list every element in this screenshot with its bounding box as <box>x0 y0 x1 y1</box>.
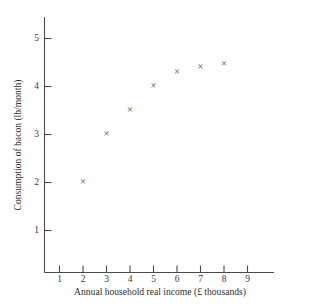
y-axis-title: Consumption of bacon (lb/month) <box>12 80 24 211</box>
x-tick-label-1: 1 <box>57 274 62 284</box>
y-tick-label-4: 4 <box>34 81 39 91</box>
x-tick-label-7: 7 <box>198 274 203 284</box>
data-point-marker: × <box>127 104 133 115</box>
y-tick-label-2: 2 <box>34 177 39 187</box>
y-tick-label-3: 3 <box>34 129 39 139</box>
x-tick-label-3: 3 <box>104 274 109 284</box>
x-tick-label-5: 5 <box>151 274 156 284</box>
y-tick-label-5: 5 <box>34 33 39 43</box>
x-tick-label-4: 4 <box>128 274 133 284</box>
data-point-marker: × <box>104 128 110 139</box>
figure-background <box>0 0 311 307</box>
data-point-marker: × <box>221 58 227 69</box>
scatter-plot-figure: 5 4 3 2 1 1 2 3 4 5 6 7 8 9 × × × × × × … <box>0 0 311 307</box>
x-tick-label-2: 2 <box>81 274 86 284</box>
data-point-marker: × <box>80 176 86 187</box>
data-point-marker: × <box>198 61 204 72</box>
y-tick-label-1: 1 <box>34 225 39 235</box>
x-tick-label-9: 9 <box>245 274 250 284</box>
data-point-marker: × <box>174 66 180 77</box>
x-tick-label-6: 6 <box>175 274 180 284</box>
data-point-marker: × <box>151 80 157 91</box>
x-axis-title: Annual household real income (£ thousand… <box>74 286 246 298</box>
x-tick-label-8: 8 <box>222 274 227 284</box>
